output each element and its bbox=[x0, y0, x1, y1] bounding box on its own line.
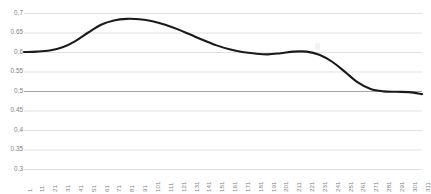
y-axis-tick-label: 0.35 bbox=[2, 146, 23, 152]
y-axis-tick-labels: 0.30.350.40.450.50.550.60.650.7 bbox=[0, 0, 23, 194]
y-axis-tick-label: 0.3 bbox=[2, 166, 23, 172]
y-axis-tick-label: 0.65 bbox=[2, 29, 23, 35]
series-line-series-1 bbox=[24, 19, 422, 94]
y-axis-tick-label: 0.45 bbox=[2, 107, 23, 113]
y-axis-tick-label: 0.6 bbox=[2, 49, 23, 55]
y-axis-tick-label: 0.55 bbox=[2, 68, 23, 74]
y-axis-tick-label: 0.7 bbox=[2, 10, 23, 16]
y-axis-tick-label: 0.5 bbox=[2, 88, 23, 94]
y-axis-tick-label: 0.4 bbox=[2, 127, 23, 133]
background-artifact bbox=[315, 43, 320, 50]
